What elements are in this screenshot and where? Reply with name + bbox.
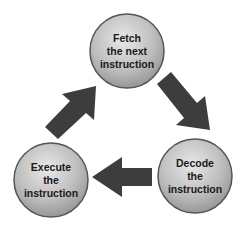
node-execute-label: Execute the instruction xyxy=(11,161,91,200)
arrow-decode-to-execute xyxy=(92,157,152,197)
label-line: the xyxy=(11,174,91,187)
arrow-fetch-to-decode xyxy=(157,72,210,130)
label-line: the next xyxy=(87,45,167,58)
label-line: the xyxy=(155,170,235,183)
label-line: Execute xyxy=(11,161,91,174)
label-line: instruction xyxy=(87,58,167,71)
node-decode-label: Decode the instruction xyxy=(155,157,235,196)
label-line: Decode xyxy=(155,157,235,170)
label-line: Fetch xyxy=(87,32,167,45)
label-line: instruction xyxy=(11,187,91,200)
arrow-execute-to-fetch xyxy=(45,86,96,139)
node-fetch-label: Fetch the next instruction xyxy=(87,32,167,71)
label-line: instruction xyxy=(155,183,235,196)
